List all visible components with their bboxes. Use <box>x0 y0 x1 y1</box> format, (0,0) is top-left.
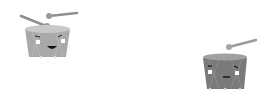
drum-top <box>25 25 70 33</box>
eye-icon <box>36 40 40 44</box>
eye-icon <box>208 70 212 74</box>
drumstick-tip-icon <box>226 44 232 50</box>
drum-foot <box>40 56 42 58</box>
drum-foot <box>54 56 56 58</box>
drum-foot <box>209 88 211 90</box>
drum-foot <box>239 88 241 90</box>
eye-icon <box>61 39 65 43</box>
drum-top <box>203 54 247 61</box>
drum-foot <box>224 88 226 90</box>
drumstick-tip-icon <box>46 13 52 19</box>
drum-rhythm-illustration <box>0 0 275 107</box>
eye-icon <box>235 71 239 75</box>
